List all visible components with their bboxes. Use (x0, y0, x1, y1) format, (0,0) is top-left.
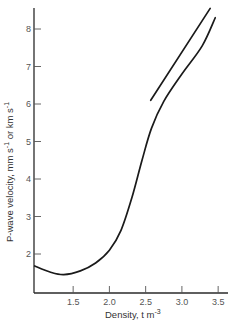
x-tick-label: 3.5 (212, 297, 225, 307)
y-axis-title: P-wave velocity, mm s-1 or km s-1 (3, 102, 15, 242)
x-tick-label: 2.5 (139, 297, 152, 307)
x-ticks: 1.52.02.53.03.5 (67, 286, 225, 307)
x-tick-label: 2.0 (103, 297, 116, 307)
y-tick-label: 7 (26, 62, 31, 72)
y-tick-label: 8 (26, 24, 31, 34)
y-tick-label: 6 (26, 99, 31, 109)
upper-line (151, 8, 210, 100)
y-tick-label: 3 (26, 212, 31, 222)
x-tick-label: 3.0 (176, 297, 189, 307)
x-axis-title: Density, t m-3 (105, 308, 161, 320)
y-tick-label: 2 (26, 249, 31, 259)
y-tick-label: 5 (26, 137, 31, 147)
data-series (35, 8, 216, 274)
velocity-density-chart: 2345678 1.52.02.53.03.5 Density, t m-3 P… (0, 0, 233, 324)
x-tick-label: 1.5 (67, 297, 80, 307)
y-tick-label: 4 (26, 174, 31, 184)
velocity-curve (35, 18, 216, 275)
